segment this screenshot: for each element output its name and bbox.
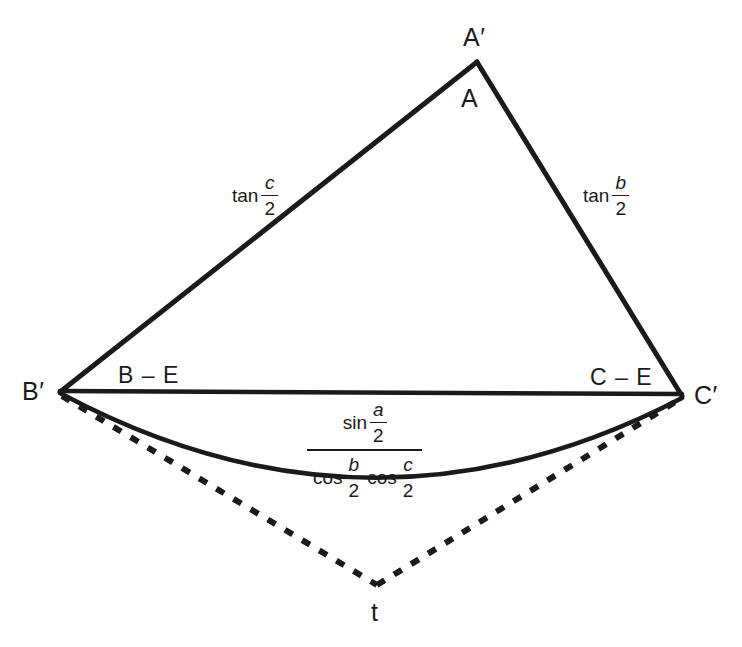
diagram-svg [0, 0, 742, 647]
sin-function: sin [343, 413, 367, 432]
vertex-label-b-prime: B′ [22, 379, 44, 404]
fraction-numerator-c: c [400, 454, 416, 475]
compound-denominator: cos b 2 cos c 2 [307, 454, 422, 501]
fraction-denominator-2: 2 [370, 425, 387, 446]
dashed-right-line [377, 399, 680, 585]
fraction-numerator-b: b [346, 454, 363, 475]
cos-function-c: cos [367, 468, 397, 487]
fraction-a-over-2: a 2 [370, 399, 387, 446]
sin-a-over-2: sin a 2 [343, 399, 387, 446]
fraction-bar [400, 477, 417, 479]
base-chord-line [60, 391, 682, 394]
vertex-label-a-prime: A′ [463, 25, 485, 50]
compound-fraction-bar [307, 449, 422, 451]
fraction-b-over-2: b 2 [612, 172, 629, 219]
fraction-denominator-2: 2 [261, 198, 278, 219]
fraction-denominator-2: 2 [400, 480, 417, 501]
fraction-b-over-2: b 2 [346, 454, 363, 501]
right-edge-line [477, 62, 682, 396]
tan-function-right: tan [583, 186, 609, 205]
fraction-denominator-2: 2 [346, 480, 363, 501]
fraction-c-over-2: c 2 [400, 454, 417, 501]
edge-label-tan-b-over-2: tan b 2 [583, 172, 629, 219]
cos-function-b: cos [313, 468, 343, 487]
compound-numerator: sin a 2 [337, 399, 393, 446]
side-label-c-minus-e: C – E [590, 366, 653, 389]
figure-canvas: A′ A B′ C′ t B – E C – E tan c 2 tan b 2… [0, 0, 742, 647]
left-edge-line [60, 62, 477, 392]
fraction-c-over-2: c 2 [261, 172, 278, 219]
vertex-label-a: A [461, 86, 478, 111]
fraction-numerator-a: a [370, 399, 387, 420]
cos-b-over-2: cos b 2 [313, 454, 362, 501]
tan-function-left: tan [232, 186, 258, 205]
fraction-bar [261, 195, 278, 197]
fraction-numerator-b: b [612, 172, 629, 193]
fraction-denominator-2: 2 [612, 198, 629, 219]
fraction-bar [346, 477, 363, 479]
arc-label-compound-fraction: sin a 2 cos b 2 cos [307, 399, 422, 501]
cos-c-over-2: cos c 2 [367, 454, 416, 501]
fraction-bar [612, 195, 629, 197]
side-label-b-minus-e: B – E [118, 364, 179, 387]
fraction-numerator-c: c [262, 172, 278, 193]
fraction-bar [370, 422, 387, 424]
vertex-label-c-prime: C′ [694, 383, 718, 408]
edge-label-tan-c-over-2: tan c 2 [232, 172, 278, 219]
vertex-label-t: t [371, 600, 378, 625]
